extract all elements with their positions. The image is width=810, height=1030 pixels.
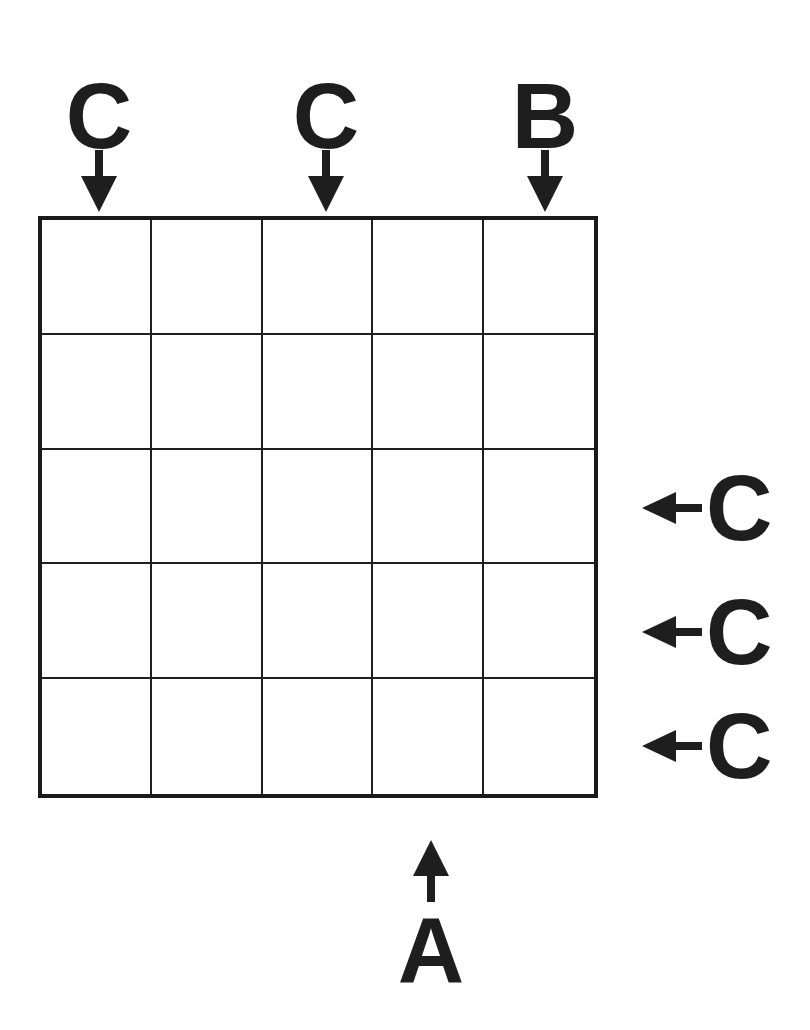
clue-letter: C	[293, 70, 359, 150]
grid-cell[interactable]	[263, 679, 373, 794]
clue-letter: C	[706, 700, 772, 792]
arrow-left-icon	[642, 488, 702, 528]
grid-cell[interactable]	[263, 335, 373, 450]
arrow-down-icon	[79, 150, 119, 212]
arrow-down-icon	[525, 150, 565, 212]
clue-letter: A	[398, 904, 464, 996]
arrow-left-icon	[642, 612, 702, 652]
top-clue-col1: C	[44, 70, 154, 212]
grid-cell[interactable]	[484, 564, 594, 679]
right-clue-row4: C	[642, 592, 772, 672]
clue-letter: C	[706, 462, 772, 554]
grid-cell[interactable]	[484, 335, 594, 450]
grid-cell[interactable]	[42, 335, 152, 450]
arrow-left-icon	[642, 726, 702, 766]
clue-letter: C	[66, 70, 132, 150]
grid-cell[interactable]	[42, 220, 152, 335]
grid-cell[interactable]	[373, 220, 483, 335]
arrow-down-icon	[306, 150, 346, 212]
right-clue-row3: C	[642, 468, 772, 548]
grid-cell[interactable]	[42, 450, 152, 565]
top-clue-col5: B	[490, 70, 600, 212]
clue-letter: B	[512, 70, 578, 150]
grid-cell[interactable]	[152, 679, 262, 794]
grid-cell[interactable]	[263, 220, 373, 335]
grid-cell[interactable]	[42, 679, 152, 794]
grid-cell[interactable]	[373, 564, 483, 679]
top-clue-col3: C	[271, 70, 381, 212]
grid-cell[interactable]	[373, 450, 483, 565]
grid-cell[interactable]	[152, 450, 262, 565]
right-clue-row5: C	[642, 706, 772, 786]
grid-cell[interactable]	[152, 220, 262, 335]
grid-cell[interactable]	[152, 335, 262, 450]
grid-cell[interactable]	[484, 679, 594, 794]
grid-cell[interactable]	[42, 564, 152, 679]
puzzle-grid	[38, 216, 598, 798]
grid-cell[interactable]	[263, 450, 373, 565]
grid-cell[interactable]	[484, 450, 594, 565]
arrow-up-icon	[411, 840, 451, 902]
grid-cell[interactable]	[373, 679, 483, 794]
grid-cell[interactable]	[152, 564, 262, 679]
clue-letter: C	[706, 586, 772, 678]
bottom-clue-col4: A	[376, 840, 486, 996]
grid-cell[interactable]	[373, 335, 483, 450]
grid-cell[interactable]	[484, 220, 594, 335]
grid-cell[interactable]	[263, 564, 373, 679]
